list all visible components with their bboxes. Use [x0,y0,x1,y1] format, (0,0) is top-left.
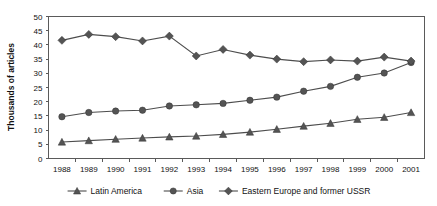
data-point [220,100,226,106]
x-tick-label: 1990 [107,165,125,174]
y-axis-title-text: Thousands of articles [6,43,16,131]
data-point [327,83,333,89]
data-point [300,88,306,94]
circle-icon [170,188,176,194]
x-tick-label: 1997 [295,165,313,174]
legend-label: Latin America [91,186,143,196]
x-tick-label: 2001 [402,165,420,174]
line-chart: Thousands of articles 504540353025201510… [0,0,437,206]
x-tick-label: 1993 [187,165,205,174]
data-point [274,94,280,100]
x-tick-label: 1989 [80,165,98,174]
data-point [86,109,92,115]
y-tick-label: 35 [34,55,43,64]
data-point [381,70,387,76]
y-tick-label: 50 [34,13,43,22]
data-point [354,74,360,80]
x-tick-label: 2000 [375,165,393,174]
y-tick-label: 20 [34,98,43,107]
data-point [59,114,65,120]
x-tick-label: 1992 [160,165,178,174]
x-tick-label: 1998 [322,165,340,174]
y-tick-label: 40 [34,41,43,50]
x-tick-label: 1996 [268,165,286,174]
data-point [139,107,145,113]
chart-background [0,0,437,206]
data-point [166,103,172,109]
x-tick-label: 1991 [134,165,152,174]
data-point [247,97,253,103]
data-point [193,102,199,108]
y-tick-label: 0 [38,155,43,164]
y-tick-label: 15 [34,112,43,121]
data-point [112,108,118,114]
legend-label: Eastern Europe and former USSR [242,186,371,196]
y-tick-label: 25 [34,84,43,93]
y-axis-title: Thousands of articles [6,43,16,131]
x-tick-label: 1999 [348,165,366,174]
legend-label: Asia [187,186,204,196]
y-tick-label: 30 [34,69,43,78]
x-tick-label: 1988 [53,165,71,174]
chart-canvas: Thousands of articles 504540353025201510… [0,0,437,206]
y-tick-label: 10 [34,126,43,135]
y-tick-label: 45 [34,27,43,36]
y-tick-label: 5 [38,140,43,149]
x-tick-label: 1995 [241,165,259,174]
x-tick-label: 1994 [214,165,232,174]
